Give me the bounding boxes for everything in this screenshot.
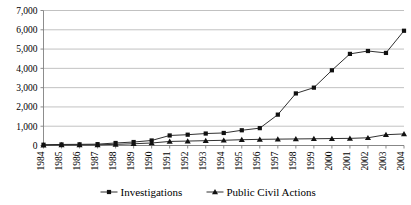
x-axis-tick-labels: 1984198519861987198819891990199119921993…	[36, 151, 407, 170]
chart-container: 01,0002,0003,0004,0005,0006,0007,000 198…	[0, 0, 411, 205]
x-tick-label: 1996	[252, 151, 262, 170]
square-marker	[204, 131, 208, 135]
legend-label: Investigations	[121, 186, 183, 198]
square-marker	[222, 131, 226, 135]
y-tick-label: 0	[33, 141, 38, 151]
square-marker	[186, 133, 190, 137]
x-tick-label: 2002	[360, 151, 370, 170]
square-marker	[276, 113, 280, 117]
x-tick-label: 1984	[36, 151, 46, 170]
x-tick-label: 1998	[288, 151, 298, 170]
chart-background	[0, 0, 411, 205]
square-marker	[240, 128, 244, 132]
square-marker	[258, 126, 262, 130]
square-marker	[366, 49, 370, 53]
x-tick-label: 1999	[306, 151, 316, 170]
x-tick-label: 1988	[108, 151, 118, 170]
square-marker	[348, 52, 352, 56]
square-marker	[384, 51, 388, 55]
x-tick-label: 2003	[378, 151, 388, 170]
x-tick-label: 2001	[342, 151, 352, 170]
square-marker	[168, 133, 172, 137]
x-tick-label: 2000	[324, 151, 334, 170]
y-tick-label: 6,000	[16, 25, 38, 35]
y-tick-label: 7,000	[16, 6, 38, 16]
y-tick-label: 2,000	[16, 102, 38, 112]
square-marker	[107, 190, 111, 194]
x-tick-label: 1997	[270, 151, 280, 170]
x-tick-label: 1985	[54, 151, 64, 170]
y-tick-label: 1,000	[16, 122, 38, 132]
x-tick-label: 1990	[144, 151, 154, 170]
line-chart: 01,0002,0003,0004,0005,0006,0007,000 198…	[0, 0, 411, 205]
x-tick-label: 1993	[198, 151, 208, 170]
square-marker	[330, 68, 334, 72]
square-marker	[294, 91, 298, 95]
y-tick-label: 3,000	[16, 83, 38, 93]
x-tick-label: 1986	[72, 151, 82, 170]
x-tick-label: 1994	[216, 151, 226, 170]
x-tick-label: 1987	[90, 151, 100, 170]
x-tick-label: 1995	[234, 151, 244, 170]
x-tick-label: 1992	[180, 151, 190, 170]
legend-label: Public Civil Actions	[227, 186, 316, 198]
square-marker	[402, 29, 406, 33]
y-tick-label: 5,000	[16, 44, 38, 54]
square-marker	[312, 86, 316, 90]
x-tick-label: 1991	[162, 151, 172, 170]
x-tick-label: 2004	[396, 151, 406, 170]
y-tick-label: 4,000	[16, 64, 38, 74]
x-tick-label: 1989	[126, 151, 136, 170]
